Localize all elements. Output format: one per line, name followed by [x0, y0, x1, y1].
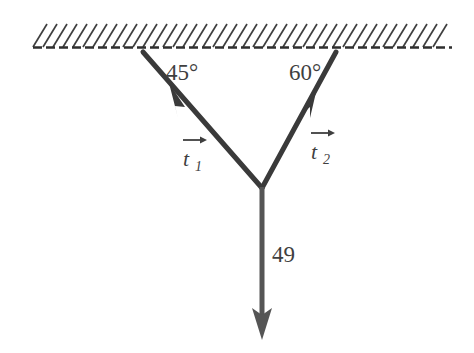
tension-right-subscript: 2 — [323, 152, 330, 167]
tension-label-left: t 1 — [183, 137, 207, 175]
rope-left — [143, 52, 262, 188]
tension-left-letter: t — [183, 146, 190, 171]
vector-arrow-left-head — [200, 137, 207, 144]
physics-figure: 45° 60° t 1 t 2 49 — [0, 0, 474, 353]
rope-left-line — [143, 52, 262, 188]
tension-right-letter: t — [311, 139, 318, 164]
angle-label-right: 60° — [289, 60, 321, 85]
weight-rope — [252, 187, 272, 340]
weight-label: 49 — [272, 242, 295, 267]
tension-diagram-svg: 45° 60° t 1 t 2 49 — [0, 0, 474, 353]
angle-label-left: 45° — [166, 60, 198, 85]
hatch-lines — [33, 24, 447, 47]
vector-arrow-right-head — [328, 130, 335, 137]
hatched-ceiling — [33, 24, 452, 48]
tension-left-subscript: 1 — [195, 159, 202, 174]
tension-label-right: t 2 — [311, 130, 335, 168]
